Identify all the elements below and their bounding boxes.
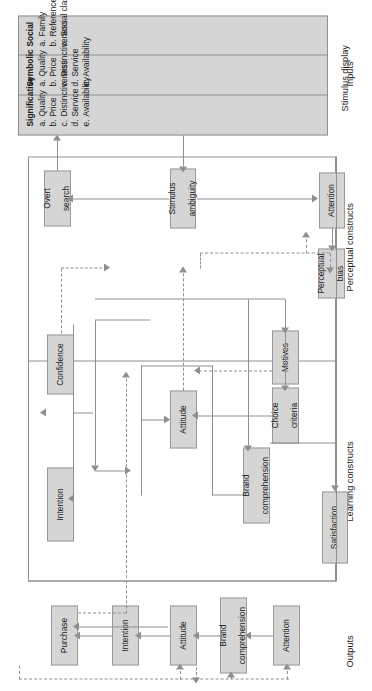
arrowhead-confidence-feed-up bbox=[40, 409, 46, 417]
arrowhead-satisfaction-to-brand bbox=[331, 485, 339, 491]
stimulus-to-overt-search bbox=[72, 198, 169, 199]
perceptual-box-attention[interactable]: Attention bbox=[319, 172, 345, 228]
learning-box-satisfaction[interactable]: Satisfaction bbox=[322, 491, 348, 563]
stimulus-item: a.Quality bbox=[37, 103, 48, 126]
item-key: e. bbox=[81, 76, 92, 86]
learning-box-brand-comprehension[interactable]: Brand comprehension bbox=[243, 447, 270, 523]
arrowhead-feedback-up-attitude bbox=[192, 677, 200, 683]
item-key: e. bbox=[81, 116, 92, 126]
feedback-bus-main bbox=[19, 678, 289, 679]
item-key: c. bbox=[59, 116, 70, 126]
item-key: b. bbox=[48, 116, 59, 126]
row-label-perceptual-constructs: Perceptual constructs bbox=[345, 203, 355, 291]
arrowhead-feedback-attention bbox=[283, 663, 291, 669]
learning-satisfaction-label: Satisfaction bbox=[330, 505, 340, 548]
arrow-attitude-to-intention bbox=[140, 635, 170, 636]
learning-choice-criteria-label: Choice criteria bbox=[271, 402, 301, 428]
arrowhead-dashed-attention bbox=[302, 231, 310, 237]
learning-brand-comprehension-line2: comprehension bbox=[261, 456, 271, 513]
stimulus-item: d.Service bbox=[70, 103, 81, 126]
item-key: a. bbox=[37, 76, 48, 86]
learning-box-confidence[interactable]: Confidence bbox=[47, 334, 74, 394]
learning-intention-label: Intention bbox=[56, 488, 66, 520]
arrow-brand-to-attitude bbox=[198, 635, 220, 636]
item-text: Price bbox=[48, 57, 58, 76]
brand-comp-stub-to-satisfaction bbox=[270, 442, 336, 443]
motives-to-attitude-v bbox=[199, 370, 272, 371]
arrowhead-intention-to-confidence bbox=[125, 466, 131, 474]
output-intention-label: Intention bbox=[121, 619, 131, 651]
arrow-attention-to-brand bbox=[250, 635, 273, 636]
arrowhead-purchase-to-satisfaction bbox=[122, 371, 130, 377]
learning-perceptual-divider bbox=[28, 580, 336, 581]
item-key: b. bbox=[48, 76, 59, 86]
learning-attitude-label: Attitude bbox=[179, 405, 189, 433]
item-key: c. bbox=[59, 36, 70, 46]
confidence-feed-up bbox=[73, 412, 93, 413]
perceptual-box-stimulus-ambiguity[interactable]: Stimulus ambiguity bbox=[170, 168, 196, 228]
feedback-to-purchase bbox=[19, 665, 20, 679]
brand-to-attitude-v1 bbox=[212, 494, 243, 495]
item-text: Reference groups bbox=[48, 0, 58, 36]
overt-search-line1: Overt bbox=[43, 185, 53, 210]
inputs-to-stimulus-ambiguity bbox=[183, 134, 184, 166]
item-key: d. bbox=[70, 116, 81, 126]
arrowhead-attention-to-bias bbox=[328, 245, 336, 251]
brand-to-attitude-right bbox=[141, 365, 213, 366]
arrowhead-attention-to-brand bbox=[245, 632, 251, 640]
arrowhead-intention-to-purchase bbox=[74, 632, 80, 640]
arrowhead-collector-to-choice bbox=[281, 385, 289, 391]
brand-to-attitude-top bbox=[141, 365, 142, 495]
arrowhead-feedback-attitude bbox=[176, 663, 184, 669]
stimulus-ambiguity-line1: Stimulus bbox=[168, 180, 178, 216]
stimulus-item: c.Distinctiveness bbox=[59, 63, 70, 86]
arrowhead-learning-intention-to-purchase bbox=[73, 623, 79, 631]
arrowhead-brand-to-attitude bbox=[193, 632, 199, 640]
choice-to-attitude-v bbox=[197, 415, 272, 416]
item-key: a. bbox=[37, 36, 48, 46]
arrowhead-stimulus-to-overt bbox=[67, 195, 73, 203]
confidence-to-overt-search-v bbox=[61, 267, 107, 268]
stimulus-item: e.Availability bbox=[81, 63, 92, 86]
stimulus-item: b.Reference groups bbox=[48, 22, 59, 46]
arrowhead-confidence-to-intention bbox=[68, 495, 74, 503]
output-box-brand-comprehension[interactable]: Brand comprehension bbox=[220, 597, 247, 673]
learning-box-choice-criteria[interactable]: Choice criteria bbox=[272, 387, 299, 443]
learning-brand-comprehension-label: Brand comprehension bbox=[242, 456, 272, 513]
output-attitude-label: Attitude bbox=[179, 621, 189, 649]
diagram-canvas: Outputs Learning constructs Perceptual c… bbox=[0, 0, 372, 691]
stimulus-heading-social: Social bbox=[25, 22, 35, 46]
stimulus-heading-significative: Significative bbox=[25, 103, 35, 126]
arrowhead-inputs-to-stimulus bbox=[179, 166, 187, 172]
item-text: Price bbox=[48, 97, 58, 116]
row-label-outputs: Outputs bbox=[345, 635, 355, 667]
stimulus-display-panel: Significative a.Quality b.Price c.Distin… bbox=[18, 15, 328, 135]
stimulus-item: b.Price bbox=[48, 63, 59, 86]
arrow-intention-to-purchase bbox=[79, 635, 112, 636]
dashed-bias-branch bbox=[330, 253, 331, 267]
learning-box-intention[interactable]: Intention bbox=[47, 467, 74, 541]
output-brand-comprehension-label: Brand comprehension bbox=[219, 606, 249, 663]
item-text: Family bbox=[37, 11, 47, 36]
arrowhead-dashed-bias bbox=[326, 267, 334, 273]
attitude-to-intention-bus bbox=[95, 320, 96, 465]
output-attention-label: Attention bbox=[282, 618, 292, 651]
attitude-to-intention-riser bbox=[95, 319, 150, 320]
arrowhead-confidence-to-overt bbox=[104, 263, 110, 271]
item-text: Social class bbox=[59, 0, 69, 36]
item-key: b. bbox=[48, 36, 59, 46]
arrowhead-choice-to-attitude bbox=[192, 412, 198, 420]
arrowhead-feedback-brand bbox=[227, 671, 235, 677]
attitude-dashed-h bbox=[183, 268, 184, 390]
item-key: c. bbox=[59, 76, 70, 86]
confidence-to-overt-search-h bbox=[61, 268, 62, 333]
output-box-attention[interactable]: Attention bbox=[273, 605, 300, 665]
learning-brand-comprehension-line1: Brand bbox=[242, 456, 252, 513]
intention-down-to-confidence bbox=[95, 470, 129, 471]
item-key: d. bbox=[70, 76, 81, 86]
brand-to-attitude-down bbox=[141, 419, 169, 420]
perceptual-stimulus-ambiguity-label: Stimulus ambiguity bbox=[168, 180, 198, 216]
stimulus-column-significative: Significative a.Quality b.Price c.Distin… bbox=[19, 94, 327, 134]
stimulus-heading-symbolic: Symbolic bbox=[25, 63, 35, 86]
arrowhead-collector-to-motives bbox=[281, 327, 289, 333]
